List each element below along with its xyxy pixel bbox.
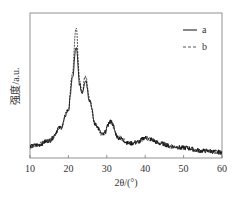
x-tick-label: 60 bbox=[217, 163, 227, 174]
series-line-b bbox=[30, 28, 222, 154]
legend: a b bbox=[183, 24, 207, 52]
plot-frame bbox=[30, 13, 222, 158]
xrd-chart: 102030405060 强度/a.u. 2θ/(°) a b bbox=[0, 0, 239, 197]
legend-label-b: b bbox=[202, 41, 207, 52]
data-series bbox=[30, 28, 222, 154]
x-tick-label: 50 bbox=[179, 163, 189, 174]
legend-label-a: a bbox=[202, 24, 207, 35]
x-tick-label: 40 bbox=[140, 163, 150, 174]
x-axis-label: 2θ/(°) bbox=[114, 177, 137, 189]
y-axis-label: 强度/a.u. bbox=[9, 67, 21, 104]
series-line-a bbox=[30, 48, 222, 155]
x-tick-label: 10 bbox=[25, 163, 35, 174]
x-tick-label: 30 bbox=[102, 163, 112, 174]
x-tick-label: 20 bbox=[63, 163, 73, 174]
